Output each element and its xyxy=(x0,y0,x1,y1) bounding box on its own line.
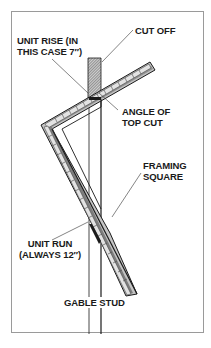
label-unit-rise-line1: UNIT RISE (IN xyxy=(17,35,82,46)
label-unit-run-line1: UNIT RUN xyxy=(19,238,81,249)
label-unit-rise-line2: THIS CASE 7″) xyxy=(17,46,82,57)
label-unit-run-line2: (ALWAYS 12″) xyxy=(19,249,81,260)
label-cut-off: CUT OFF xyxy=(135,25,175,36)
label-framing-line1: FRAMING xyxy=(143,160,187,171)
label-framing-line2: SQUARE xyxy=(143,171,187,182)
top-cut-mark xyxy=(89,97,101,100)
label-framing-square: FRAMING SQUARE xyxy=(143,160,187,182)
label-angle-line1: ANGLE OF xyxy=(122,106,170,117)
label-angle-line2: TOP CUT xyxy=(122,117,170,128)
label-gable-stud: GABLE STUD xyxy=(63,297,126,308)
label-unit-rise: UNIT RISE (IN THIS CASE 7″) xyxy=(17,35,82,57)
label-angle-of-top-cut: ANGLE OF TOP CUT xyxy=(122,106,170,128)
label-unit-run: UNIT RUN (ALWAYS 12″) xyxy=(19,238,81,260)
